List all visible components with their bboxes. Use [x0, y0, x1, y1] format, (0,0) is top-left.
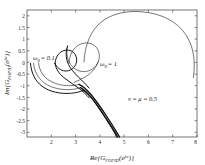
y-title-gsub: FOPID — [7, 65, 12, 80]
x-tick-labels: 2 3 4 5 6 7 8 — [50, 139, 197, 145]
curve-omega0-1 — [84, 11, 194, 77]
omega-value-high: = 1 — [108, 60, 117, 67]
y-tick-label: 0.5 — [18, 48, 25, 54]
y-tickmarks — [27, 16, 197, 133]
annotation-omega0-high: ω0= 1 — [100, 60, 117, 69]
x-title-prefix: Re{ — [89, 154, 100, 162]
y-title-prefix: Im{ — [3, 85, 11, 96]
y-tick-label: 1 — [22, 36, 25, 42]
curve-bundle-tertiary — [83, 90, 116, 137]
x-tick-label: 5 — [123, 139, 126, 145]
x-tickmarks — [51, 10, 197, 137]
y-tick-label: -1.5 — [16, 95, 25, 101]
x-tick-label: 7 — [171, 139, 174, 145]
y-tick-label: 1.5 — [18, 25, 25, 31]
y-title-suffix: } — [3, 51, 11, 54]
y-tick-label: -1 — [21, 83, 26, 89]
x-tick-label: 6 — [147, 139, 150, 145]
omega-value-low: = 0.1 — [41, 54, 55, 61]
x-title-suffix: } — [131, 154, 134, 162]
curve-omega0-075 — [67, 43, 99, 72]
x-tick-label: 8 — [194, 139, 197, 145]
y-tick-label: 0 — [22, 60, 25, 66]
curve-branch-outer-1 — [39, 63, 80, 86]
x-tick-label: 3 — [74, 139, 77, 145]
y-tick-label: -2 — [21, 106, 26, 112]
x-axis-title: Re{GFOPID(ejw)} — [89, 154, 134, 163]
plot-frame — [27, 10, 197, 137]
y-tick-label: -3 — [21, 129, 26, 135]
y-axis-title: Im{GFOPID(ejw)} — [3, 51, 12, 96]
x-title-gsub: FOPID — [104, 158, 119, 163]
nyquist-plot-figure: 2 3 4 5 6 7 8 2 1.5 1 0.5 0 -0.5 -1 -1.5… — [0, 0, 205, 165]
y-tick-label: -0.5 — [16, 71, 25, 77]
annotation-omega0-low: ω0= 0.1 — [33, 54, 55, 63]
y-tick-labels: 2 1.5 1 0.5 0 -0.5 -1 -1.5 -2 -2.5 -3 — [16, 13, 25, 135]
annotation-params: ν = μ = 0.5 — [128, 95, 157, 102]
curve-connector-3 — [74, 62, 98, 82]
y-tick-label: 2 — [22, 13, 25, 19]
x-tick-label: 2 — [50, 139, 53, 145]
plot-canvas: 2 3 4 5 6 7 8 2 1.5 1 0.5 0 -0.5 -1 -1.5… — [0, 0, 205, 165]
y-tick-label: -2.5 — [16, 118, 25, 124]
x-tick-label: 4 — [99, 139, 102, 145]
